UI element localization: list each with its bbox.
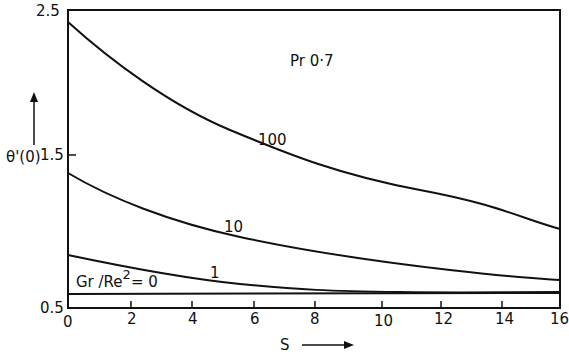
- curve-0: [68, 293, 560, 294]
- curve-10: [68, 173, 560, 280]
- curve-label-0-suffix: = 0: [131, 273, 158, 291]
- x-tick-label-16: 16: [550, 310, 569, 328]
- x-tick-label-12: 12: [434, 310, 453, 328]
- y-axis-arrow-icon: [30, 92, 38, 102]
- x-tick-label-10: 10: [374, 312, 393, 330]
- x-tick-label-8: 8: [310, 310, 320, 328]
- pr-annotation: Pr 0·7: [290, 52, 334, 70]
- x-tick-label-0: 0: [63, 313, 73, 331]
- x-axis-label: S: [280, 336, 290, 354]
- curve-label-10: 10: [224, 218, 243, 236]
- x-axis-arrow-icon: [344, 341, 354, 349]
- curve-label-100: 100: [258, 131, 287, 149]
- x-tick-label-2: 2: [127, 310, 137, 328]
- y-tick-label-0.5: 0.5: [40, 299, 64, 317]
- x-tick-label-14: 14: [495, 310, 514, 328]
- x-ticks: [131, 301, 502, 308]
- x-tick-label-4: 4: [188, 310, 198, 328]
- x-tick-label-6: 6: [250, 310, 260, 328]
- y-tick-label-2.5: 2.5: [36, 2, 60, 20]
- curve-label-0-prefix: Gr /Re: [76, 273, 123, 291]
- chart: 2.5 1.5 0.5 θ'(0) 0 2 4 6 8 10 12 14 16 …: [0, 0, 569, 357]
- curve-label-0-sup: 2: [123, 267, 131, 282]
- y-tick-label-1.5: 1.5: [40, 146, 64, 164]
- curve-label-1: 1: [210, 264, 220, 282]
- y-axis-label: θ'(0): [6, 148, 41, 166]
